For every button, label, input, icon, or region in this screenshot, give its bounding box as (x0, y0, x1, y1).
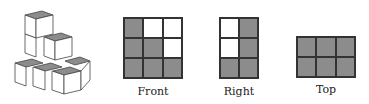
grid-cell (220, 18, 239, 38)
right-view-grid (219, 17, 259, 79)
grid-cell (124, 58, 143, 78)
grid-cell (239, 58, 258, 78)
front-label: Front (123, 85, 183, 98)
grid-cell (316, 37, 335, 57)
top-label: Top (296, 83, 356, 96)
front-view-grid (123, 17, 183, 79)
grid-cell (239, 38, 258, 58)
right-label: Right (214, 85, 264, 98)
grid-cell (143, 38, 162, 58)
grid-cell (163, 38, 182, 58)
grid-cell (336, 57, 355, 77)
grid-cell (297, 37, 316, 57)
grid-cell (336, 37, 355, 57)
top-view-grid (296, 36, 356, 78)
grid-cell (220, 58, 239, 78)
grid-cell (124, 38, 143, 58)
grid-cell (163, 18, 182, 38)
grid-cell (239, 18, 258, 38)
grid-cell (316, 57, 335, 77)
grid-cell (143, 18, 162, 38)
grid-cell (163, 58, 182, 78)
grid-cell (220, 38, 239, 58)
grid-cell (143, 58, 162, 78)
grid-cell (124, 18, 143, 38)
grid-cell (297, 57, 316, 77)
isometric-cube-stack (0, 0, 100, 104)
